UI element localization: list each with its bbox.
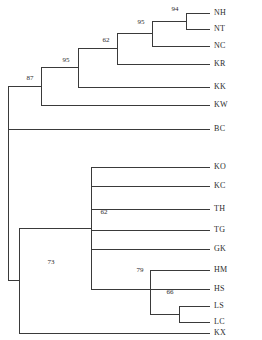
- support-value-73: 73: [48, 258, 56, 266]
- tip-label-lc: LC: [214, 317, 225, 326]
- support-value-95-upper: 95: [138, 18, 146, 26]
- phylogenetic-tree-figure: NHNT94NC95KR62KK95KW87BCLSLC66HMHS79KOKC…: [0, 0, 262, 340]
- tree-canvas: NHNT94NC95KR62KK95KW87BCLSLC66HMHS79KOKC…: [0, 0, 262, 340]
- tip-label-nc: NC: [214, 41, 226, 50]
- tip-label-hm: HM: [214, 265, 228, 274]
- tip-label-kc: KC: [214, 181, 226, 190]
- tip-label-tg: TG: [214, 225, 225, 234]
- tip-label-nt: NT: [214, 24, 225, 33]
- tip-label-nh: NH: [214, 8, 226, 17]
- tip-label-kw: KW: [214, 100, 228, 109]
- support-value-62-lower: 62: [101, 208, 109, 216]
- tip-label-hs: HS: [214, 284, 225, 293]
- tip-label-bc: BC: [214, 124, 225, 133]
- support-value-87: 87: [27, 74, 35, 82]
- tip-label-kx: KX: [214, 328, 226, 337]
- tip-label-ls: LS: [214, 301, 224, 310]
- tip-label-gk: GK: [214, 244, 226, 253]
- tip-label-ko: KO: [214, 162, 226, 171]
- tip-label-th: TH: [214, 204, 225, 213]
- support-value-94: 94: [172, 5, 180, 13]
- support-value-62-upper: 62: [103, 36, 111, 44]
- support-value-79: 79: [137, 266, 145, 274]
- support-value-95-lower: 95: [63, 56, 71, 64]
- tip-label-kr: KR: [214, 59, 226, 68]
- tip-label-kk: KK: [214, 82, 226, 91]
